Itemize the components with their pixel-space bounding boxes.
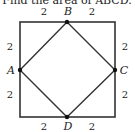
label-a: A bbox=[6, 64, 15, 77]
square-diagram: Find the area of ABCD. A B C D 2 2 2 2 2… bbox=[0, 0, 135, 132]
point-a bbox=[18, 68, 22, 72]
length-right-top: 2 bbox=[122, 41, 128, 52]
label-b: B bbox=[63, 5, 72, 18]
label-d: D bbox=[63, 120, 73, 132]
length-bottom-left: 2 bbox=[41, 121, 47, 132]
length-bottom-right: 2 bbox=[89, 121, 95, 132]
length-left-top: 2 bbox=[7, 41, 13, 52]
outer-square bbox=[20, 22, 115, 117]
length-top-left: 2 bbox=[41, 6, 47, 17]
point-c bbox=[113, 68, 117, 72]
length-left-bottom: 2 bbox=[7, 89, 13, 100]
point-d bbox=[65, 115, 69, 119]
length-top-right: 2 bbox=[89, 6, 95, 17]
length-right-bottom: 2 bbox=[122, 89, 128, 100]
label-c: C bbox=[120, 64, 129, 77]
inner-square-abcd bbox=[20, 22, 115, 117]
diagram-canvas: Find the area of ABCD. A B C D 2 2 2 2 2… bbox=[0, 0, 135, 132]
point-b bbox=[65, 20, 69, 24]
